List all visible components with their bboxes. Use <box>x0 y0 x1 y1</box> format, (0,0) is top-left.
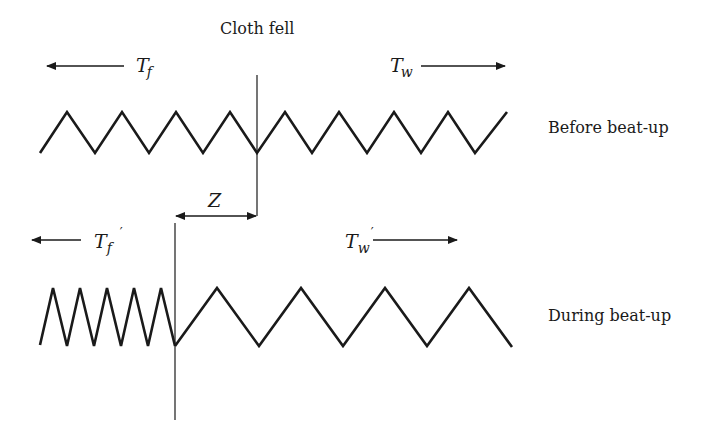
tf-prime-subscript: f <box>107 240 112 256</box>
before-beatup-label: Before beat-up <box>548 118 669 137</box>
tw-prime-mark: ′ <box>371 225 374 240</box>
diagram-canvas <box>0 0 703 447</box>
during-beatup-stretched-zigzag <box>175 288 512 347</box>
cloth-fell-label: Cloth fell <box>220 19 294 38</box>
tension-tf-label: Tf <box>136 54 152 80</box>
tw-subscript: w <box>401 64 413 80</box>
during-beatup-label: During beat-up <box>548 306 671 325</box>
tw-prime-subscript: w <box>358 240 370 256</box>
tf-prime-symbol: T <box>94 230 107 252</box>
tw-prime-symbol: T <box>345 230 358 252</box>
z-label: Z <box>208 189 221 211</box>
tension-tf-prime-label: T′f <box>94 229 112 256</box>
tension-tw-label: Tw <box>390 54 413 80</box>
tf-prime-mark: ′ <box>120 225 123 240</box>
tension-tw-prime-label: T′w <box>345 229 370 256</box>
before-beatup-zigzag <box>40 112 507 153</box>
during-beatup-compressed-zigzag <box>40 288 175 346</box>
tf-subscript: f <box>147 64 152 80</box>
